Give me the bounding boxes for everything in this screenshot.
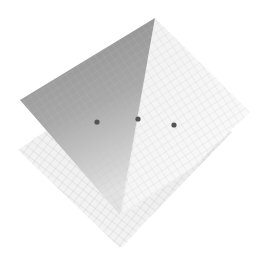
diagram-canvas	[0, 0, 268, 257]
point-3	[171, 122, 176, 127]
point-1	[94, 119, 99, 124]
intersecting-planes-figure	[0, 0, 268, 257]
point-2	[135, 116, 140, 121]
